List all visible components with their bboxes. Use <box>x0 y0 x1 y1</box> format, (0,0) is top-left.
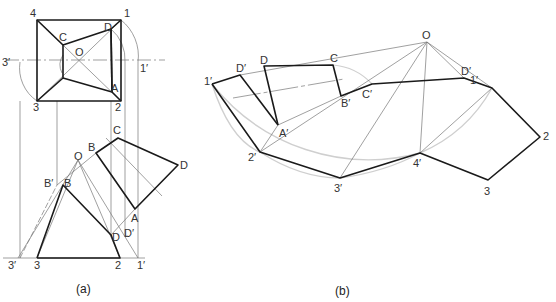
label-c: C <box>59 32 67 43</box>
label-2-prime: 2′ <box>248 152 256 163</box>
label-o: O <box>74 151 83 162</box>
label-2: 2 <box>115 260 121 271</box>
label-3-prime: 3′ <box>2 57 10 68</box>
label-b: B <box>64 178 71 189</box>
label-a: A <box>131 213 138 224</box>
label-b-upper: B <box>88 142 95 153</box>
label-2: 2 <box>115 102 121 113</box>
label-3-prime: 3′ <box>334 183 342 194</box>
label-o: O <box>75 47 84 58</box>
caption-b: (b) <box>335 285 350 297</box>
label-3: 3 <box>34 260 40 271</box>
label-d-prime-left: D′ <box>236 63 246 74</box>
label-d: D <box>112 232 120 243</box>
label-4: 4 <box>30 8 36 19</box>
label-3: 3 <box>484 186 490 197</box>
label-1-prime: 1′ <box>137 260 145 271</box>
label-b-prime: B′ <box>341 98 350 109</box>
top-view <box>5 20 165 258</box>
label-1-prime-left: 1′ <box>204 76 212 87</box>
label-d-prime: D′ <box>124 228 134 239</box>
label-1-prime-right: 1′ <box>470 75 478 86</box>
label-3-prime: 3′ <box>8 260 16 271</box>
front-view <box>3 138 178 258</box>
drawing-canvas: 4 1 C D O 3′ 1′ A 3 2 O C B D B′ B A D D… <box>0 0 556 302</box>
label-4-prime: 4′ <box>413 158 421 169</box>
label-a-prime: A′ <box>279 128 288 139</box>
label-c-prime: C′ <box>362 89 372 100</box>
label-b-prime: B′ <box>44 178 53 189</box>
label-c: C <box>113 125 121 136</box>
label-o: O <box>422 30 431 41</box>
label-d: D <box>104 22 112 33</box>
label-1: 1 <box>124 8 130 19</box>
caption-a: (a) <box>76 283 91 295</box>
label-1-prime: 1′ <box>140 63 148 74</box>
label-a: A <box>111 83 118 94</box>
label-c: C <box>330 53 338 64</box>
label-d: D <box>260 55 268 66</box>
label-3: 3 <box>33 102 39 113</box>
label-2: 2 <box>543 131 549 142</box>
label-d-right: D <box>180 160 188 171</box>
